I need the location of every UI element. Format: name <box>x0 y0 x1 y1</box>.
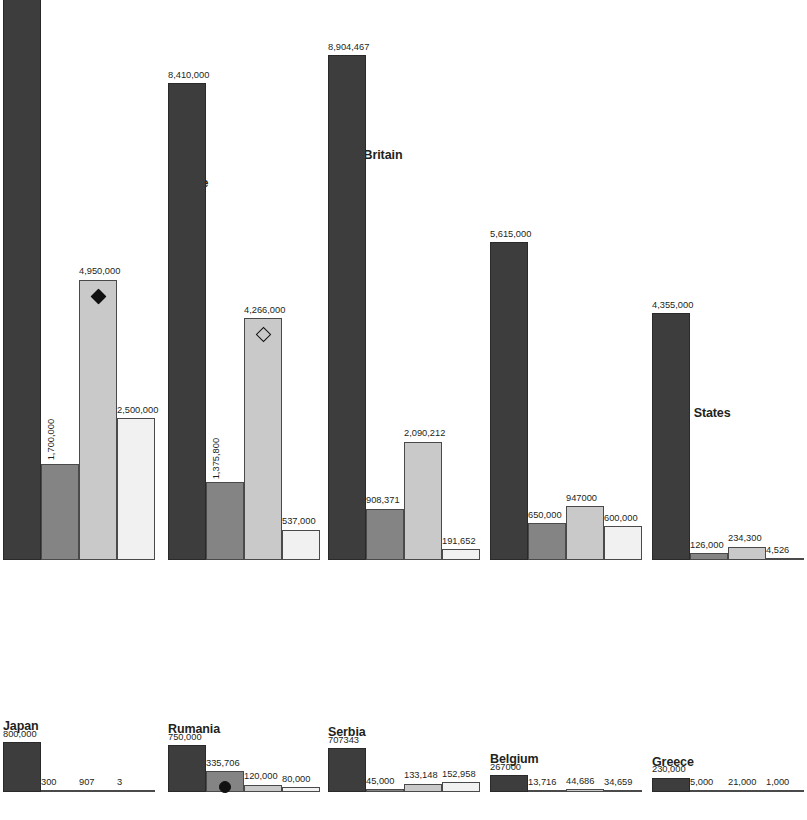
bar-rect <box>652 778 690 792</box>
bar-series-3[interactable]: 21,000 <box>728 790 766 792</box>
bar-rect <box>528 790 566 792</box>
bar-series-4[interactable]: 152,958 <box>442 782 480 792</box>
bar-series-4[interactable]: 1,000 <box>766 790 804 792</box>
bar-value-label: 44,686 <box>566 777 594 786</box>
bar-series-1[interactable]: 707343 <box>328 748 366 792</box>
bar-series-4[interactable]: 80,000 <box>282 787 320 792</box>
bar-rect <box>690 790 728 792</box>
bar-rect <box>404 784 442 792</box>
bar-value-label: 750,000 <box>168 733 202 742</box>
bar-value-label: 707343 <box>328 736 359 745</box>
wwi-casualties-chart: 12,000,0001,700,0004,950,0002,500,000Fra… <box>0 0 807 820</box>
bar-group-japan: Japan800,0003009073 <box>3 0 156 806</box>
bar-rect <box>282 787 320 792</box>
bar-value-label: 34,659 <box>604 778 632 787</box>
bar-rect <box>117 790 155 792</box>
bar-value-label: 13,716 <box>528 778 556 787</box>
bar-series-2[interactable]: 13,716 <box>528 790 566 792</box>
bar-value-label: 267000 <box>490 763 521 772</box>
bar-rect <box>728 790 766 792</box>
bar-rect <box>41 790 79 792</box>
bar-rect <box>3 742 41 792</box>
bar-rect <box>604 790 642 792</box>
bar-rect <box>566 789 604 792</box>
bar-series-3[interactable]: 133,148 <box>404 784 442 792</box>
bar-rect <box>328 748 366 792</box>
bar-series-2[interactable]: 45,000 <box>366 789 404 792</box>
bar-value-label: 230,000 <box>652 765 686 774</box>
bar-value-label: 800,000 <box>3 730 37 739</box>
bar-series-3[interactable]: 907 <box>79 790 117 792</box>
bar-value-label: 133,148 <box>404 771 438 780</box>
bar-value-label: 120,000 <box>244 772 278 781</box>
bar-value-label: 152,958 <box>442 770 476 779</box>
bar-rect <box>442 782 480 792</box>
bar-rect <box>244 785 282 793</box>
bar-series-1[interactable]: 267000 <box>490 775 528 792</box>
bar-rect <box>490 775 528 792</box>
bar-group-rumania: Rumania750,000335,706120,00080,000 <box>168 0 321 806</box>
bar-series-3[interactable]: 120,000 <box>244 785 282 793</box>
bar-series-1[interactable]: 230,000 <box>652 778 690 792</box>
bar-group-greece: Greece230,0005,00021,0001,000 <box>652 0 805 806</box>
bar-value-label: 907 <box>79 778 95 787</box>
bar-series-2[interactable]: 5,000 <box>690 790 728 792</box>
bar-rect <box>766 790 804 792</box>
bar-series-2[interactable]: 300 <box>41 790 79 792</box>
bar-value-label: 21,000 <box>728 778 756 787</box>
bar-value-label: 45,000 <box>366 777 394 786</box>
bar-rect <box>366 789 404 792</box>
bar-rect <box>168 745 206 792</box>
bar-rect <box>79 790 117 792</box>
bar-series-1[interactable]: 750,000 <box>168 745 206 792</box>
bar-group-belgium: Belgium26700013,71644,68634,659 <box>490 0 643 806</box>
bar-series-4[interactable]: 34,659 <box>604 790 642 792</box>
bar-value-label: 5,000 <box>690 778 713 787</box>
bar-series-4[interactable]: 3 <box>117 790 155 792</box>
bar-value-label: 80,000 <box>282 775 310 784</box>
bar-value-label: 1,000 <box>766 778 789 787</box>
bar-value-label: 300 <box>41 778 57 787</box>
data-point-marker-circle <box>219 781 231 793</box>
bar-series-3[interactable]: 44,686 <box>566 789 604 792</box>
bar-group-serbia: Serbia70734345,000133,148152,958 <box>328 0 481 806</box>
bar-series-1[interactable]: 800,000 <box>3 742 41 792</box>
bar-value-label: 335,706 <box>206 759 240 768</box>
bar-value-label: 3 <box>117 778 122 787</box>
bar-series-2[interactable]: 335,706 <box>206 771 244 792</box>
